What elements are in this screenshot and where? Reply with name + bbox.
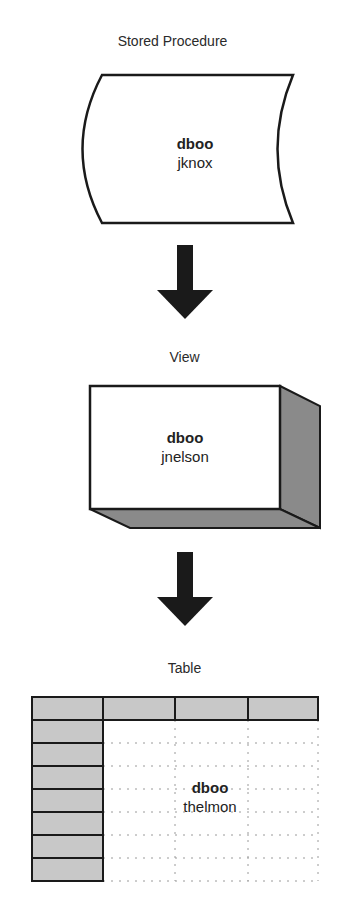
view-label: View [12,349,345,365]
table-name: thelmon [140,797,280,816]
table-owner: dboo [140,778,280,797]
stored-procedure-label: Stored Procedure [0,33,345,49]
stored-procedure-text: dboo jknox [100,134,290,172]
table-label: Table [12,660,345,676]
arrow-down-icon [157,552,213,626]
arrow-down-icon [157,245,213,319]
view-owner: dboo [90,428,280,447]
view-name: jnelson [90,447,280,466]
stored-procedure-owner: dboo [100,134,290,153]
table-text: dboo thelmon [140,778,280,816]
view-text: dboo jnelson [90,428,280,466]
stored-procedure-name: jknox [100,153,290,172]
